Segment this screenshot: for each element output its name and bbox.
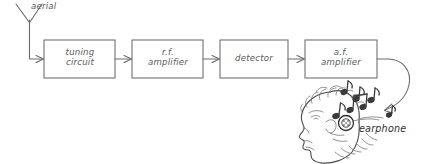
block-label-af-amplifier: a.f. amplifier <box>305 48 377 67</box>
block-label-detector: detector <box>220 54 288 64</box>
listener-illustration <box>0 0 421 164</box>
block-label-rf-amplifier: r.f. amplifier <box>132 48 204 67</box>
earphone-label: earphone <box>359 124 419 135</box>
aerial-label: aerial <box>31 2 77 12</box>
block-label-tuning-circuit: tuning circuit <box>44 48 116 67</box>
radio-receiver-diagram: aerial tuning circuit r.f. amplifier det… <box>0 0 421 164</box>
